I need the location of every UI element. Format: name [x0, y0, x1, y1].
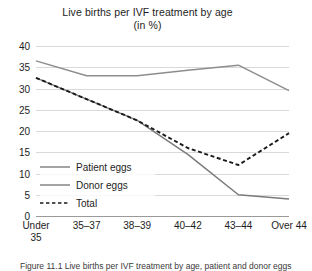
y-axis-tick-label: 5 [24, 189, 30, 200]
chart-title: Live births per IVF treatment by age [0, 6, 295, 19]
gridline [36, 216, 289, 217]
chart-title-block: Live births per IVF treatment by age (in… [0, 6, 295, 32]
x-axis-tick-label: Under 35 [13, 220, 59, 244]
y-axis-tick-label: 10 [19, 168, 30, 179]
legend-label-patient-eggs: Patient eggs [76, 162, 132, 173]
y-axis-tick-label: 35 [19, 62, 30, 73]
legend-item-total: Total [40, 194, 155, 212]
figure-caption: Figure 11.1 Live births per IVF treatmen… [20, 261, 295, 271]
x-axis-tick-label: 40–42 [165, 220, 211, 232]
y-axis-tick-label: 15 [19, 147, 30, 158]
legend-item-donor-eggs: Donor eggs [40, 176, 155, 194]
x-axis-tick-label: Over 44 [266, 220, 312, 232]
y-axis-tick-label: 25 [19, 104, 30, 115]
y-axis-tick-label: 20 [19, 126, 30, 137]
chart-subtitle: (in %) [0, 19, 295, 32]
legend-item-patient-eggs: Patient eggs [40, 158, 155, 176]
legend-swatch-total [40, 198, 70, 208]
x-axis-tick-label: 38–39 [114, 220, 160, 232]
x-axis-tick-label: 35–37 [64, 220, 110, 232]
y-axis-tick-label: 40 [19, 41, 30, 52]
legend-swatch-patient-eggs [40, 162, 70, 172]
chart-legend: Patient eggs Donor eggs Total [40, 156, 155, 214]
legend-swatch-donor-eggs [40, 180, 70, 190]
legend-label-donor-eggs: Donor eggs [76, 180, 128, 191]
y-axis-tick-label: 30 [19, 83, 30, 94]
legend-label-total: Total [76, 198, 97, 209]
series-line-donor-eggs [36, 61, 289, 91]
x-axis-tick-label: 43–44 [215, 220, 261, 232]
series-line-total [36, 78, 289, 165]
